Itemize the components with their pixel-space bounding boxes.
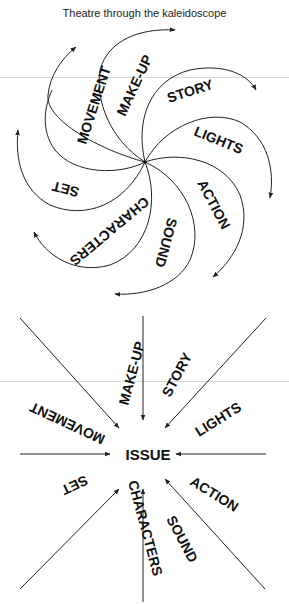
convergence-label-lights: LIGHTS <box>192 399 244 440</box>
spiral-label-sound: SOUND <box>152 216 181 269</box>
spiral-label-action: ACTION <box>194 177 233 232</box>
issue-label: ISSUE <box>125 446 170 463</box>
convergence-label-action: ACTION <box>187 473 241 515</box>
arrow-from-bottom-left <box>20 489 119 589</box>
spiral-label-movement: MOVEMENT <box>74 64 114 146</box>
spiral-label-story: STORY <box>165 76 216 106</box>
kaleidoscope-diagram: MOVEMENT MAKE-UP STORY LIGHTS ACTION SOU… <box>0 0 289 604</box>
convergence-label-movement: MOVEMENT <box>27 399 107 448</box>
spiral-diagram: MOVEMENT MAKE-UP STORY LIGHTS ACTION SOU… <box>17 30 271 294</box>
spiral-center-point <box>143 160 146 163</box>
convergence-label-characters: CHARACTERS <box>125 479 166 578</box>
convergence-label-story: STORY <box>159 349 196 399</box>
spiral-label-set: SET <box>50 178 81 201</box>
spiral-label-lights: LIGHTS <box>192 123 246 157</box>
convergence-label-sound: SOUND <box>163 513 201 565</box>
spiral-label-characters: CHARACTERS <box>67 194 152 269</box>
convergence-label-set: SET <box>59 472 91 498</box>
convergence-diagram: ISSUE MAKE-UP STORY MOVEMENT LIGHTS SET … <box>20 316 266 602</box>
spiral-label-makeup: MAKE-UP <box>113 52 155 118</box>
